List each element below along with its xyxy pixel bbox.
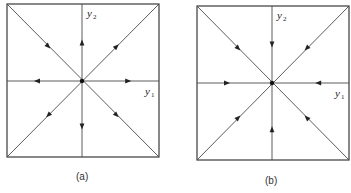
- equilibrium-point: [270, 81, 274, 85]
- panel-a: y2y1: [7, 4, 159, 157]
- arrow-left-icon: [34, 79, 40, 84]
- arrow-upper-left-icon: [44, 43, 50, 49]
- caption-b: (b): [265, 175, 277, 186]
- arrow-up-icon: [270, 42, 275, 48]
- arrow-lower-right-icon: [113, 111, 119, 117]
- y1-subscript: 1: [341, 93, 345, 101]
- arrow-right-icon: [315, 81, 321, 86]
- y1-subscript: 1: [151, 91, 155, 99]
- arrow-right-icon: [125, 79, 131, 84]
- y2-subscript: 2: [93, 13, 97, 21]
- caption-a: (a): [76, 171, 88, 182]
- arrow-left-icon: [224, 81, 230, 86]
- panel-b: y2y1: [197, 6, 349, 160]
- y1-axis-label: y: [334, 87, 340, 99]
- arrow-down-icon: [80, 124, 85, 130]
- arrow-up-icon: [80, 40, 85, 46]
- arrow-down-icon: [270, 126, 275, 132]
- y2-subscript: 2: [283, 15, 287, 23]
- y1-axis-label: y: [144, 85, 150, 97]
- y2-axis-label: y: [86, 7, 92, 19]
- equilibrium-point: [80, 79, 84, 83]
- phase-portrait-diagram: y2y1y2y1: [0, 0, 351, 193]
- y2-axis-label: y: [276, 9, 282, 21]
